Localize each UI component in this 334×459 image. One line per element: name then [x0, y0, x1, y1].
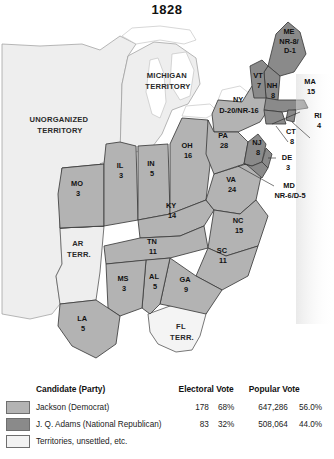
state-mo-shape [58, 164, 104, 228]
legend-body: Jackson (Democrat) 178 68% 647,286 56.0%… [6, 399, 330, 450]
legend-header-row: Candidate (Party) Electoral Vote Popular… [6, 384, 330, 399]
legend-popular-header: Popular Vote [249, 384, 330, 399]
arkansas-territory-shape [56, 226, 104, 304]
legend-swatch-territories-cell [6, 433, 36, 450]
map-legend: Candidate (Party) Electoral Vote Popular… [0, 384, 334, 459]
legend-swatch-header [6, 384, 36, 399]
legend-swatch-jackson [6, 401, 30, 414]
legend-popular-adams: 508,064 [249, 416, 299, 433]
legend-electoral-territories [179, 433, 218, 450]
legend-electoral-header: Electoral Vote [179, 384, 249, 399]
legend-electoral-pct-jackson: 68% [218, 399, 249, 416]
legend-swatch-jackson-cell [6, 399, 36, 416]
legend-popular-territories [249, 433, 299, 450]
state-il [104, 142, 138, 226]
legend-row-adams: J. Q. Adams (National Republican) 83 32%… [6, 416, 330, 433]
legend-table: Candidate (Party) Electoral Vote Popular… [6, 384, 330, 450]
label-pa: PA 28 [218, 131, 230, 150]
legend-row-territories: Territories, unsettled, etc. [6, 433, 330, 450]
map-canvas: ME NR-8/ D-1 VT 7 NH 8 MA 15 RI [0, 14, 334, 380]
legend-label-adams: J. Q. Adams (National Republican) [36, 416, 179, 433]
label-va: VA 24 [226, 175, 238, 194]
legend-popular-pct-territories [299, 433, 330, 450]
election-map-figure: 1828 [0, 0, 334, 459]
legend-candidate-header: Candidate (Party) [36, 384, 179, 399]
legend-swatch-adams-cell [6, 416, 36, 433]
legend-label-jackson: Jackson (Democrat) [36, 399, 179, 416]
legend-popular-jackson: 647,286 [249, 399, 299, 416]
legend-popular-pct-adams: 44.0% [299, 416, 330, 433]
legend-electoral-pct-territories [218, 433, 249, 450]
legend-electoral-adams: 83 [179, 416, 218, 433]
legend-swatch-territories [6, 435, 30, 448]
legend-row-jackson: Jackson (Democrat) 178 68% 647,286 56.0% [6, 399, 330, 416]
legend-label-territories: Territories, unsettled, etc. [36, 433, 179, 450]
legend-popular-pct-jackson: 56.0% [299, 399, 330, 416]
legend-swatch-adams [6, 418, 30, 431]
legend-electoral-jackson: 178 [179, 399, 218, 416]
legend-electoral-pct-adams: 32% [218, 416, 249, 433]
